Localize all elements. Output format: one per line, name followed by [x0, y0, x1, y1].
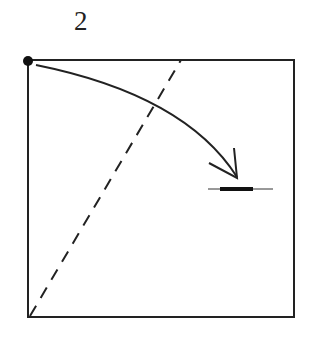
fold-arrow-curve [36, 65, 237, 177]
fold-diagram [0, 0, 317, 344]
valley-fold-line [30, 60, 181, 316]
corner-dot-icon [23, 56, 33, 66]
arrowhead-icon [209, 148, 237, 178]
